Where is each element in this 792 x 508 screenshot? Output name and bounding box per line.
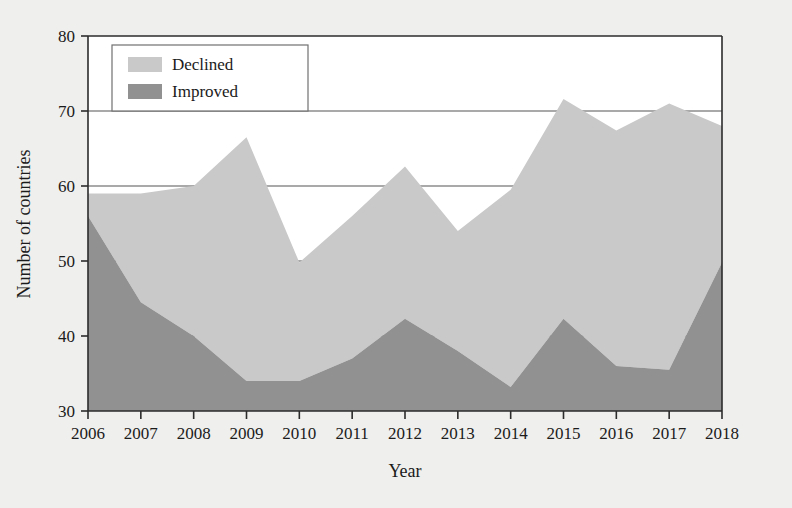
y-tick-label-40: 40 (58, 327, 75, 346)
x-tick-label-2008: 2008 (177, 424, 211, 443)
legend-swatch-declined (128, 57, 162, 72)
x-tick-label-2007: 2007 (124, 424, 159, 443)
y-tick-label-80: 80 (58, 27, 75, 46)
x-tick-label-2009: 2009 (230, 424, 264, 443)
y-tick-label-70: 70 (58, 102, 75, 121)
x-tick-label-2011: 2011 (335, 424, 368, 443)
y-tick-label-60: 60 (58, 177, 75, 196)
legend-swatch-improved (128, 84, 162, 99)
x-tick-label-2013: 2013 (441, 424, 475, 443)
y-tick-label-50: 50 (58, 252, 75, 271)
y-axis-title: Number of countries (14, 150, 34, 299)
x-tick-label-2012: 2012 (388, 424, 422, 443)
y-tick-label-30: 30 (58, 402, 75, 421)
x-tick-label-2014: 2014 (494, 424, 529, 443)
x-tick-label-2016: 2016 (599, 424, 633, 443)
x-axis-title: Year (388, 461, 421, 481)
legend-label-improved: Improved (172, 82, 239, 101)
chart-legend[interactable]: DeclinedImproved (112, 45, 308, 111)
x-tick-label-2017: 2017 (652, 424, 687, 443)
chart-figure: 304050607080 200620072008200920102011201… (0, 0, 792, 508)
legend-label-declined: Declined (172, 55, 234, 74)
x-tick-label-2015: 2015 (547, 424, 581, 443)
x-tick-label-2006: 2006 (71, 424, 105, 443)
area-chart: 304050607080 200620072008200920102011201… (0, 0, 792, 508)
x-tick-label-2018: 2018 (705, 424, 739, 443)
x-tick-label-2010: 2010 (282, 424, 316, 443)
